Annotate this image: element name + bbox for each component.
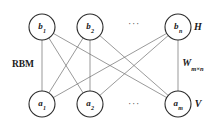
node-label-base: b: [86, 21, 91, 31]
node-label-base: a: [173, 98, 178, 108]
rbm-side-label: RBM: [12, 60, 34, 70]
node-label-subscript: 1: [43, 105, 46, 111]
node-label-base: b: [38, 21, 43, 31]
node-label-vm: am: [173, 99, 182, 110]
node-label-v2: a2: [86, 99, 94, 110]
node-label-v1: a1: [38, 99, 46, 110]
node-label-h1: b1: [38, 22, 46, 33]
weight-matrix-label: Wm×n: [182, 58, 203, 71]
weight-subscript: m×n: [191, 64, 203, 71]
layer-label-hidden: H: [194, 22, 202, 32]
rbm-diagram-canvas: b1b2bn···Ha1a2am···V RBM Wm×n: [0, 0, 217, 127]
node-label-subscript: 2: [91, 28, 94, 34]
node-label-base: b: [174, 21, 179, 31]
node-label-subscript: n: [179, 28, 182, 34]
node-label-subscript: m: [178, 105, 183, 111]
layer-label-visible: V: [195, 99, 202, 109]
weight-symbol: W: [182, 57, 191, 68]
node-label-subscript: 1: [43, 28, 46, 34]
edges-group: [42, 33, 178, 97]
node-label-h2: b2: [86, 22, 94, 33]
node-label-base: a: [86, 98, 91, 108]
node-label-subscript: 2: [91, 105, 94, 111]
ellipsis-visible: ···: [128, 99, 140, 109]
node-label-hn: bn: [174, 22, 182, 33]
ellipsis-hidden: ···: [128, 19, 140, 29]
node-label-base: a: [38, 98, 43, 108]
